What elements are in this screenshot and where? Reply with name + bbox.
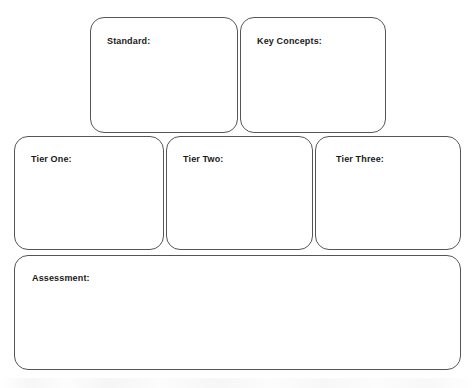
graphic-organizer: Standard: Key Concepts: Tier One: Tier T…	[0, 0, 476, 388]
page-scan-artifact	[0, 378, 476, 388]
standard-box[interactable]: Standard:	[90, 17, 238, 133]
assessment-label: Assessment:	[32, 274, 90, 283]
assessment-box[interactable]: Assessment:	[14, 255, 461, 370]
tier-two-box[interactable]: Tier Two:	[166, 136, 313, 250]
tier-one-label: Tier One:	[31, 155, 72, 164]
tier-one-box[interactable]: Tier One:	[14, 136, 164, 250]
key-concepts-label: Key Concepts:	[257, 37, 322, 46]
key-concepts-box[interactable]: Key Concepts:	[240, 17, 386, 133]
tier-three-label: Tier Three:	[336, 155, 384, 164]
tier-two-label: Tier Two:	[183, 155, 224, 164]
standard-label: Standard:	[107, 37, 150, 46]
tier-three-box[interactable]: Tier Three:	[315, 136, 461, 250]
